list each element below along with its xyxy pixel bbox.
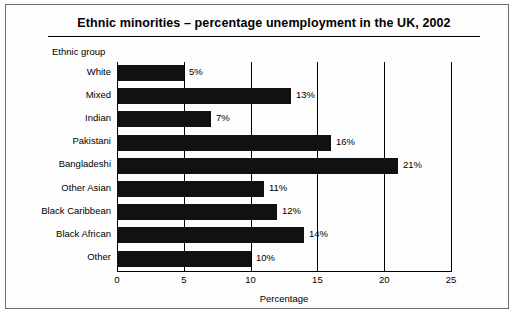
bar-other: [117, 251, 251, 267]
bar-row: 21%: [117, 155, 451, 178]
x-tick-20: 20: [372, 274, 396, 285]
category-label-other: Other: [87, 251, 111, 262]
x-axis-title: Percentage: [117, 293, 451, 304]
bar-row: 13%: [117, 85, 451, 108]
bar-value-mixed: 13%: [296, 89, 315, 100]
bar-row: 7%: [117, 108, 451, 131]
title-underline: [48, 36, 480, 37]
bar-value-other-asian: 11%: [269, 182, 287, 193]
bar-row: 16%: [117, 132, 451, 155]
category-label-black-caribbean: Black Caribbean: [41, 205, 111, 216]
bar-value-pakistani: 16%: [336, 136, 355, 147]
bar-pakistani: [117, 135, 331, 151]
bar-bangladeshi: [117, 158, 398, 174]
category-label-black-african: Black African: [56, 228, 111, 239]
bar-white: [117, 65, 184, 81]
chart-title: Ethnic minorities – percentage unemploym…: [44, 16, 484, 30]
x-tick-25: 25: [439, 274, 463, 285]
bar-indian: [117, 111, 211, 127]
group-axis-label: Ethnic group: [52, 46, 105, 57]
category-label-white: White: [87, 66, 111, 77]
bar-value-bangladeshi: 21%: [403, 159, 422, 170]
category-label-mixed: Mixed: [86, 89, 111, 100]
category-labels: White Mixed Indian Pakistani Bangladeshi…: [6, 62, 111, 271]
bar-black-african: [117, 227, 304, 243]
bar-row: 10%: [117, 248, 451, 271]
bar-value-indian: 7%: [216, 112, 230, 123]
x-tick-5: 5: [172, 274, 196, 285]
category-label-bangladeshi: Bangladeshi: [59, 158, 111, 169]
bar-row: 11%: [117, 178, 451, 201]
bar-other-asian: [117, 181, 264, 197]
bar-value-other: 10%: [256, 252, 275, 263]
gridline-25: [451, 62, 452, 271]
category-label-indian: Indian: [85, 112, 111, 123]
bar-row: 14%: [117, 224, 451, 247]
x-tick-0: 0: [105, 274, 129, 285]
x-tick-10: 10: [239, 274, 263, 285]
chart-page: Ethnic minorities – percentage unemploym…: [0, 0, 516, 315]
bar-mixed: [117, 88, 291, 104]
bar-black-caribbean: [117, 204, 277, 220]
bar-row: 5%: [117, 62, 451, 85]
x-tick-15: 15: [305, 274, 329, 285]
bar-row: 12%: [117, 201, 451, 224]
category-label-pakistani: Pakistani: [72, 135, 111, 146]
bar-value-white: 5%: [189, 66, 203, 77]
category-label-other-asian: Other Asian: [61, 182, 111, 193]
x-axis-line: [117, 271, 452, 272]
chart-frame: Ethnic minorities – percentage unemploym…: [5, 4, 509, 309]
bar-value-black-african: 14%: [309, 228, 328, 239]
bar-value-black-caribbean: 12%: [282, 205, 301, 216]
plot-area: 5% 13% 7% 16% 21% 11%: [117, 62, 451, 271]
